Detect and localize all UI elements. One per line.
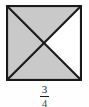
square-diagram — [6, 5, 82, 81]
fraction-caption: 3 4 — [0, 84, 89, 107]
fraction-denominator: 4 — [42, 97, 48, 107]
fraction-figure: 3 4 — [0, 0, 89, 107]
square-diagram-svg — [6, 5, 82, 81]
fraction-numerator: 3 — [42, 84, 48, 96]
